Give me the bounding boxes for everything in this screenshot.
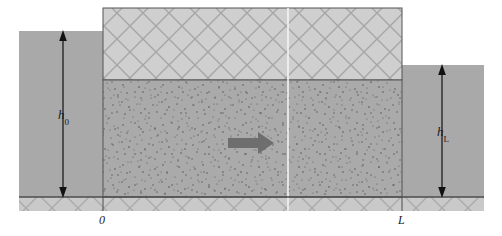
label-hL-variable: h bbox=[437, 124, 444, 139]
label-hL: hL bbox=[437, 123, 449, 142]
label-h0: h0 bbox=[58, 106, 69, 125]
axis-label-origin: 0 bbox=[99, 214, 105, 226]
label-hL-subscript: L bbox=[444, 134, 450, 144]
unsaturated-zone bbox=[103, 8, 402, 80]
label-h0-variable: h bbox=[58, 107, 65, 122]
label-h0-subscript: 0 bbox=[65, 117, 70, 127]
aquifer-cross-section-figure: h0 hL 0 L bbox=[0, 0, 502, 236]
axis-label-length: L bbox=[398, 214, 405, 226]
bedrock-base bbox=[19, 197, 484, 211]
figure-canvas bbox=[0, 0, 502, 236]
